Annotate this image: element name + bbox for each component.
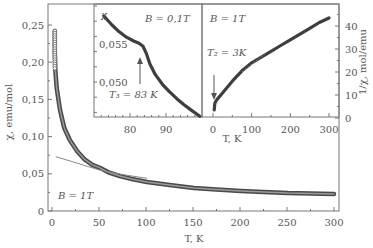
x-tick-label: 200 xyxy=(230,217,249,228)
inset-right-x-tick-label: 100 xyxy=(242,124,261,135)
inset-right-transition-label: T₂ = 3K xyxy=(207,47,247,58)
x-tick-label: 50 xyxy=(93,217,106,228)
x-tick-label: 150 xyxy=(183,217,202,228)
right-y-tick-label: 20 xyxy=(345,67,358,78)
x-tick-label: 300 xyxy=(324,217,343,228)
inset-left-axis-ticks: 80900,0500,055 xyxy=(94,6,195,135)
chart-figure: 05010015020025030000,050,100,150,200,25 … xyxy=(0,0,373,248)
y-tick-label: 0,05 xyxy=(22,168,44,179)
inset-right-x-tick-label: 0 xyxy=(210,124,216,135)
y-tick-label: 0,25 xyxy=(22,20,44,31)
inset-right-arrow xyxy=(211,75,217,100)
inset-left-transition-label: T₃ = 83 K xyxy=(109,89,158,100)
right-y-tick-label: 40 xyxy=(345,21,358,32)
inset-left-y-axis-title: χ xyxy=(100,9,108,20)
x-tick-label: 100 xyxy=(136,217,155,228)
data-marker xyxy=(53,67,57,71)
inset-left-series xyxy=(104,16,200,116)
y-tick-label: 0,10 xyxy=(22,131,44,142)
x-tick-label: 0 xyxy=(49,217,55,228)
y-tick-label: 0,20 xyxy=(22,57,44,68)
inset-right-x-tick-label: 300 xyxy=(319,124,338,135)
inset-left-field-label: B = 0,1T xyxy=(144,13,191,24)
chart-svg: 05010015020025030000,050,100,150,200,25 … xyxy=(0,0,373,248)
inset-left-x-tick-label: 90 xyxy=(160,124,173,135)
right-y-tick-label: 0 xyxy=(345,113,351,124)
right-y-axis-title: 1/χ, mol/emu xyxy=(357,28,368,95)
main-field-label: B = 1T xyxy=(57,190,94,201)
inset-left-x-tick-label: 80 xyxy=(124,124,137,135)
inset-right-field-label: B = 1T xyxy=(209,13,246,24)
right-y-tick-label: 30 xyxy=(345,44,358,55)
right-y-tick-label: 10 xyxy=(345,90,358,101)
y-tick-label: 0,15 xyxy=(22,94,44,105)
inset-left-y-tick-label: 0,055 xyxy=(99,39,128,50)
x-tick-label: 250 xyxy=(277,217,296,228)
inset-right-x-tick-label: 200 xyxy=(281,124,300,135)
inset-left-arrow xyxy=(137,57,143,84)
main-y-axis-title: χ, emu/mol xyxy=(3,84,14,140)
inset-left-data-curve xyxy=(104,16,200,116)
main-x-axis-title: T, K xyxy=(184,233,204,244)
inset-right-series xyxy=(214,18,329,110)
y-tick-label: 0 xyxy=(38,206,44,217)
inset-right-data-curve xyxy=(214,18,329,110)
inset-x-axis-title: T, K xyxy=(222,133,242,144)
inset-left-y-tick-label: 0,050 xyxy=(99,77,128,88)
